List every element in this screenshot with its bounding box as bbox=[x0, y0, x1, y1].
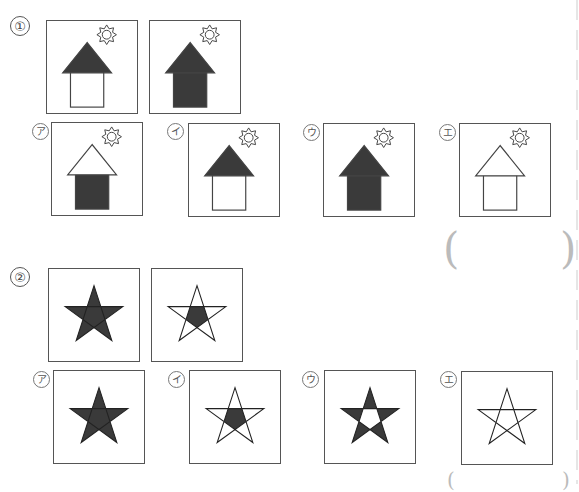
question-number-1: ① bbox=[10, 16, 30, 36]
star-choice-a[interactable] bbox=[53, 370, 145, 464]
house-drawing bbox=[150, 21, 240, 113]
star-drawing bbox=[325, 371, 415, 463]
star-choice-u[interactable] bbox=[324, 370, 416, 464]
star-choice-e[interactable] bbox=[461, 371, 553, 465]
sun-icon bbox=[510, 128, 530, 148]
house-example-1 bbox=[46, 20, 138, 114]
answer-paren-open-2: ( bbox=[447, 470, 455, 490]
house-roof bbox=[166, 43, 215, 73]
star-drawing bbox=[152, 269, 242, 361]
house-drawing bbox=[47, 21, 137, 113]
choice-label-i-2: イ bbox=[168, 371, 185, 388]
house-choice-a[interactable] bbox=[51, 122, 143, 216]
house-roof bbox=[63, 43, 112, 73]
sun-core bbox=[379, 133, 388, 142]
question-number-2: ② bbox=[10, 267, 30, 287]
answer-paren-close-1: ) bbox=[560, 228, 576, 270]
house-drawing bbox=[52, 123, 142, 215]
sun-icon bbox=[97, 25, 117, 45]
house-example-2 bbox=[149, 20, 241, 114]
house-choice-e[interactable] bbox=[459, 123, 551, 217]
house-drawing bbox=[460, 124, 550, 216]
star-drawing bbox=[462, 372, 552, 464]
choice-label-a: ア bbox=[32, 123, 49, 140]
choice-label-e: エ bbox=[439, 124, 456, 141]
answer-paren-close-2: ) bbox=[562, 470, 570, 490]
house-roof bbox=[476, 146, 525, 176]
star-drawing bbox=[49, 269, 139, 361]
house-roof bbox=[68, 145, 117, 175]
choice-label-i: イ bbox=[167, 123, 184, 140]
sun-icon bbox=[200, 25, 220, 45]
choice-label-e-2: エ bbox=[440, 371, 457, 388]
house-wall bbox=[483, 175, 516, 210]
house-wall bbox=[75, 174, 108, 209]
star-choice-i[interactable] bbox=[189, 370, 281, 464]
sun-icon bbox=[102, 127, 122, 147]
sun-icon bbox=[374, 128, 394, 148]
sun-core bbox=[515, 133, 524, 142]
answer-paren-open-1: ( bbox=[443, 228, 459, 270]
star-drawing bbox=[54, 371, 144, 463]
star-example-1 bbox=[48, 268, 140, 362]
house-choice-u[interactable] bbox=[323, 123, 415, 217]
house-wall bbox=[212, 175, 245, 210]
house-drawing bbox=[324, 124, 414, 216]
sun-core bbox=[244, 133, 253, 142]
star-drawing bbox=[190, 371, 280, 463]
choice-label-u-2: ウ bbox=[302, 371, 319, 388]
choice-label-u: ウ bbox=[303, 124, 320, 141]
house-wall bbox=[70, 72, 103, 107]
house-choice-i[interactable] bbox=[188, 123, 280, 217]
house-roof bbox=[205, 146, 254, 176]
sun-core bbox=[102, 30, 111, 39]
sun-core bbox=[107, 132, 116, 141]
house-wall bbox=[347, 175, 380, 210]
house-drawing bbox=[189, 124, 279, 216]
choice-label-a-2: ア bbox=[33, 371, 50, 388]
star-example-2 bbox=[151, 268, 243, 362]
house-wall bbox=[173, 72, 206, 107]
sun-icon bbox=[239, 128, 259, 148]
house-roof bbox=[340, 146, 389, 176]
sun-core bbox=[205, 30, 214, 39]
